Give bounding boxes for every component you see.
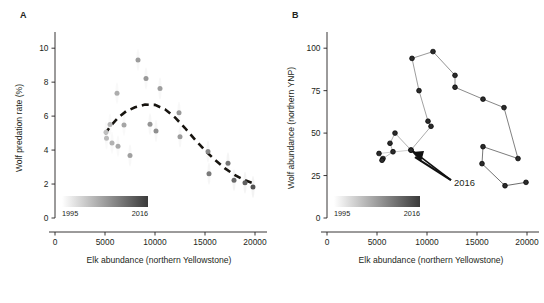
data-point <box>122 122 127 127</box>
colorbar-end-label: 2016 <box>132 209 148 218</box>
y-tick-label: 75 <box>311 86 321 96</box>
year-colorbar <box>334 196 420 207</box>
y-tick-label: 6 <box>44 111 49 121</box>
trajectory-segment <box>419 91 428 122</box>
trajectory-segment <box>455 87 483 99</box>
trajectory-point <box>481 144 486 149</box>
trajectory-point <box>417 88 422 93</box>
data-point <box>158 86 163 91</box>
trajectory-segment <box>505 182 526 185</box>
trajectory-point <box>388 141 393 146</box>
year-colorbar <box>62 196 148 207</box>
trajectory-segment <box>482 164 505 186</box>
trajectory-segment <box>483 99 504 107</box>
data-point <box>144 76 149 81</box>
trajectory-segment <box>504 108 518 159</box>
trajectory-point <box>429 124 434 129</box>
trajectory-segment <box>412 52 433 59</box>
data-point <box>178 134 183 139</box>
trajectory-point <box>431 49 436 54</box>
figure-panel-pair: A 024681005000100001500020000Elk abundan… <box>0 0 544 303</box>
y-tick-label: 4 <box>44 145 49 155</box>
y-tick-label: 50 <box>311 128 321 138</box>
data-point <box>110 140 115 145</box>
trajectory-point <box>380 158 385 163</box>
data-point <box>154 129 159 134</box>
data-point <box>104 130 109 135</box>
y-tick-label: 25 <box>311 171 321 181</box>
data-point <box>115 91 120 96</box>
trajectory-point <box>516 156 521 161</box>
data-point <box>116 144 121 149</box>
y-axis-title: Wolf predation rate (%) <box>14 84 24 172</box>
x-tick-label: 15000 <box>193 237 217 247</box>
y-axis-title: Wolf abundance (northern YNP) <box>286 67 296 189</box>
trajectory-segment <box>483 147 518 159</box>
trajectory-point <box>502 105 507 110</box>
panel-b: B 025507510005000100001500020000Elk abun… <box>272 0 544 280</box>
data-point <box>104 136 109 141</box>
panel-a: A 024681005000100001500020000Elk abundan… <box>0 0 272 280</box>
data-point <box>251 185 256 190</box>
figure-caption-clipped <box>0 288 544 300</box>
x-tick-label: 20000 <box>243 237 267 247</box>
data-point <box>128 153 133 158</box>
x-tick-label: 0 <box>53 237 58 247</box>
colorbar-start-label: 1995 <box>334 209 350 218</box>
x-tick-label: 20000 <box>515 237 539 247</box>
trajectory-segment <box>412 58 419 90</box>
trajectory-point <box>453 73 458 78</box>
trajectory-point <box>480 161 485 166</box>
trajectory-point <box>377 151 382 156</box>
panel-b-plot: 025507510005000100001500020000Elk abunda… <box>272 0 544 280</box>
x-tick-label: 0 <box>325 237 330 247</box>
data-point <box>207 171 212 176</box>
trajectory-point <box>393 131 398 136</box>
x-tick-label: 10000 <box>143 237 167 247</box>
y-tick-label: 8 <box>44 77 49 87</box>
y-tick-label: 0 <box>316 213 321 223</box>
x-tick-label: 15000 <box>465 237 489 247</box>
trajectory-point <box>391 149 396 154</box>
y-tick-label: 2 <box>44 179 49 189</box>
data-point <box>136 58 141 63</box>
colorbar-end-label: 2016 <box>404 209 420 218</box>
data-point <box>243 180 248 185</box>
trajectory-point <box>481 97 486 102</box>
data-point <box>177 110 182 115</box>
data-point <box>232 178 237 183</box>
trajectory-point <box>453 85 458 90</box>
y-tick-label: 0 <box>44 213 49 223</box>
trajectory-point <box>503 183 508 188</box>
trajectory-point <box>426 119 431 124</box>
x-axis-title: Elk abundance (northern Yellowstone) <box>87 255 232 265</box>
data-point <box>226 161 231 166</box>
data-point <box>108 122 113 127</box>
y-tick-label: 100 <box>307 43 321 53</box>
data-point <box>206 149 211 154</box>
x-tick-label: 5000 <box>368 237 387 247</box>
trajectory-point <box>524 180 529 185</box>
x-tick-label: 10000 <box>415 237 439 247</box>
data-point <box>148 122 153 127</box>
colorbar-start-label: 1995 <box>62 209 78 218</box>
trajectory-point <box>410 56 415 61</box>
x-axis-title: Elk abundance (northern Yellowstone) <box>359 255 504 265</box>
annotation-2016-label: 2016 <box>454 177 475 188</box>
y-tick-label: 10 <box>39 43 49 53</box>
trajectory-segment <box>395 133 411 150</box>
trajectory-segment <box>411 126 431 150</box>
x-tick-label: 5000 <box>96 237 115 247</box>
panel-a-plot: 024681005000100001500020000Elk abundance… <box>0 0 272 280</box>
trajectory-segment <box>433 52 455 76</box>
